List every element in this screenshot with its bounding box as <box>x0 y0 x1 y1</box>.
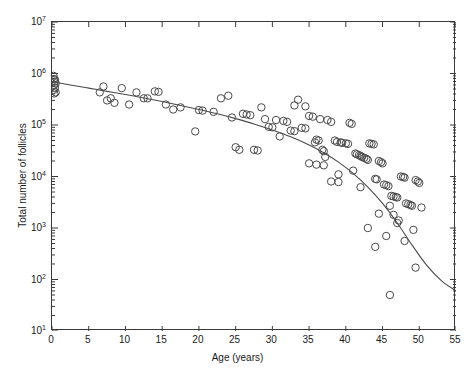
data-markers <box>52 72 425 299</box>
x-tick-label: 35 <box>303 334 314 345</box>
y-tick-label: 101 <box>20 324 46 336</box>
data-point <box>302 103 309 110</box>
data-point <box>276 133 283 140</box>
data-point <box>383 232 390 239</box>
plot-area <box>51 21 455 330</box>
data-point <box>327 178 334 185</box>
data-point <box>305 160 312 167</box>
data-point <box>410 226 417 233</box>
data-point <box>320 162 327 169</box>
data-point <box>170 106 177 113</box>
x-axis-title: Age (years) <box>0 352 475 363</box>
data-point <box>386 291 393 298</box>
y-tick-label: 107 <box>20 15 46 27</box>
data-point <box>401 237 408 244</box>
y-axis-title: Total number of follicles <box>17 106 28 246</box>
data-point <box>348 120 355 127</box>
data-point <box>217 95 224 102</box>
x-tick-label: 25 <box>229 334 240 345</box>
x-tick-label: 30 <box>266 334 277 345</box>
data-point <box>291 102 298 109</box>
x-tick-label: 40 <box>339 334 350 345</box>
data-point <box>412 264 419 271</box>
data-point <box>261 115 268 122</box>
x-tick-label: 10 <box>119 334 130 345</box>
data-point <box>375 210 382 217</box>
y-tick-label: 106 <box>20 66 46 78</box>
chart-figure: 0510152025303540455055 10110210310410510… <box>0 0 475 371</box>
x-tick-label: 50 <box>413 334 424 345</box>
data-point <box>386 202 393 209</box>
data-point <box>385 182 392 189</box>
fit-curve <box>52 81 456 290</box>
data-point <box>357 183 364 190</box>
x-tick-label: 15 <box>156 334 167 345</box>
data-point <box>258 104 265 111</box>
plot-canvas <box>52 22 456 331</box>
data-point <box>192 128 199 135</box>
data-point <box>372 243 379 250</box>
data-point <box>118 84 125 91</box>
axis-ticks <box>52 22 456 331</box>
data-point <box>335 178 342 185</box>
data-point <box>133 89 140 96</box>
x-tick-label: 20 <box>192 334 203 345</box>
data-point <box>364 224 371 231</box>
data-point <box>418 204 425 211</box>
data-point <box>225 92 232 99</box>
data-point <box>316 115 323 122</box>
y-tick-label: 102 <box>20 272 46 284</box>
x-tick-label: 55 <box>449 334 460 345</box>
data-point <box>335 171 342 178</box>
data-point <box>272 116 279 123</box>
x-tick-label: 45 <box>376 334 387 345</box>
data-point <box>313 161 320 168</box>
data-point <box>125 101 132 108</box>
x-tick-label: 5 <box>85 334 91 345</box>
data-point <box>177 104 184 111</box>
x-tick-label: 0 <box>48 334 54 345</box>
